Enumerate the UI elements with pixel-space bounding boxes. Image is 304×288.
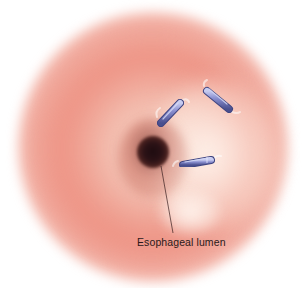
clip-lower [183,157,211,165]
tissue-puckering [156,80,240,166]
clip-upper-right [207,89,229,109]
esophageal-lumen-label: Esophageal lumen [137,236,226,248]
clip-upper-left [161,103,180,123]
label-leader-line [161,166,173,233]
esophagus-illustration: Esophageal lumen [0,0,304,288]
